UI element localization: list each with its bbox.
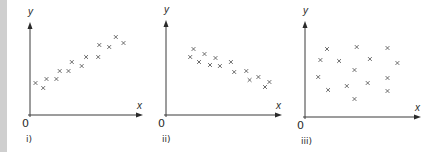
panel-label: iii) xyxy=(301,136,312,146)
data-point xyxy=(353,97,357,101)
data-point xyxy=(263,85,267,89)
y-axis-arrowhead xyxy=(164,20,169,27)
y-axis-arrowhead xyxy=(303,21,308,28)
x-axis-label: x xyxy=(136,100,143,111)
data-point xyxy=(386,76,390,80)
data-point xyxy=(218,64,222,68)
panel-label: i) xyxy=(26,134,32,144)
data-point xyxy=(214,56,218,60)
x-axis-label: x xyxy=(275,100,282,111)
scatter-plots-figure: x y 0 i) x y 0 ii) x y 0 iii) xyxy=(0,0,437,152)
data-point xyxy=(197,60,201,64)
data-points xyxy=(316,45,399,101)
data-point xyxy=(80,64,84,68)
data-point xyxy=(41,86,45,90)
data-point xyxy=(84,55,88,59)
data-point xyxy=(366,81,370,85)
origin-label: 0 xyxy=(158,117,165,130)
data-point xyxy=(55,77,59,81)
x-axis-arrowhead xyxy=(414,115,421,120)
panel-label: ii) xyxy=(162,134,171,144)
scatter-panel-2: x y 0 ii) xyxy=(158,4,282,144)
data-point xyxy=(257,75,261,79)
data-point xyxy=(203,52,207,56)
x-axis-arrowhead xyxy=(275,113,282,118)
y-axis-label: y xyxy=(163,4,170,15)
data-point xyxy=(107,45,111,49)
data-point xyxy=(319,58,323,62)
x-axis-arrowhead xyxy=(136,113,143,118)
data-point xyxy=(326,88,330,92)
data-point xyxy=(208,63,212,67)
y-axis-arrowhead xyxy=(28,22,33,29)
data-point xyxy=(34,81,38,85)
data-point xyxy=(248,78,252,82)
data-point xyxy=(345,84,349,88)
data-point xyxy=(67,69,71,73)
data-point xyxy=(114,35,118,39)
data-point xyxy=(244,69,248,73)
scatter-panel-3: x y 0 iii) xyxy=(297,5,421,146)
data-points xyxy=(188,47,271,89)
data-points xyxy=(34,35,126,90)
y-axis-label: y xyxy=(27,6,34,17)
data-point xyxy=(386,46,390,50)
data-point xyxy=(97,43,101,47)
data-point xyxy=(325,47,329,51)
data-point xyxy=(58,69,62,73)
data-point xyxy=(353,68,357,72)
data-point xyxy=(232,70,236,74)
origin-label: 0 xyxy=(297,119,304,132)
data-point xyxy=(192,47,196,51)
data-point xyxy=(229,60,233,64)
data-point xyxy=(45,77,49,81)
data-point xyxy=(337,59,341,63)
data-point xyxy=(355,45,359,49)
data-point xyxy=(316,75,320,79)
data-point xyxy=(386,89,390,93)
data-point xyxy=(396,61,400,65)
origin-label: 0 xyxy=(22,117,29,130)
data-point xyxy=(96,55,100,59)
y-axis-label: y xyxy=(302,5,309,16)
data-point xyxy=(122,41,126,45)
data-point xyxy=(188,55,192,59)
x-axis-label: x xyxy=(414,102,421,113)
data-point xyxy=(70,60,74,64)
data-point xyxy=(268,80,272,84)
scatter-panel-1: x y 0 i) xyxy=(22,6,143,144)
data-point xyxy=(368,57,372,61)
